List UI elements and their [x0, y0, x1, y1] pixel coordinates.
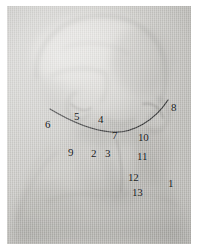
- callout-label-12: 12: [128, 172, 139, 183]
- callout-label-11: 11: [137, 151, 147, 162]
- photographic-plate: 6 5 4 7 8 9 2 3 10 11 12 13 1: [7, 6, 191, 244]
- callout-label-10: 10: [138, 132, 149, 143]
- callout-label-7: 7: [112, 130, 118, 141]
- callout-label-9: 9: [68, 147, 74, 158]
- figure-root: 6 5 4 7 8 9 2 3 10 11 12 13 1: [0, 0, 199, 252]
- callout-label-6: 6: [45, 119, 51, 130]
- callout-label-3: 3: [105, 148, 111, 159]
- callout-label-13: 13: [132, 187, 143, 198]
- callout-label-2: 2: [91, 148, 97, 159]
- illustration-artwork: [7, 6, 191, 244]
- callout-label-1: 1: [168, 178, 174, 189]
- callout-label-8: 8: [171, 102, 177, 113]
- callout-label-5: 5: [74, 111, 80, 122]
- callout-label-4: 4: [98, 114, 104, 125]
